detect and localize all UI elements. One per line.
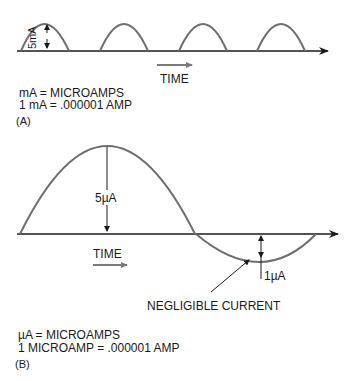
panel-a-pulse-3 [179, 24, 227, 51]
negligible-current-callout: NEGLIGIBLE CURRENT [147, 300, 280, 313]
panel-b-negative-label: 1µA [264, 270, 286, 283]
panel-a-note-line2: 1 mA = .000001 AMP [19, 99, 132, 112]
panel-a-pulse-4 [257, 24, 305, 51]
panel-b-amplitude-label: 5µA [95, 192, 117, 205]
panel-b-note-line2: 1 MICROAMP = .000001 AMP [18, 342, 180, 355]
panel-b-negative-half-cycle [196, 234, 316, 262]
panel-a-pulse-2 [100, 24, 148, 51]
panel-b-label: (B) [15, 358, 30, 371]
waveform-diagram [0, 0, 348, 381]
callout-leader-line [211, 260, 249, 292]
panel-a-time-label: TIME [160, 73, 189, 86]
panel-b-time-label: TIME [93, 248, 122, 261]
panel-a-amplitude-label: 5mA [26, 26, 38, 49]
panel-a-label: (A) [16, 115, 31, 128]
